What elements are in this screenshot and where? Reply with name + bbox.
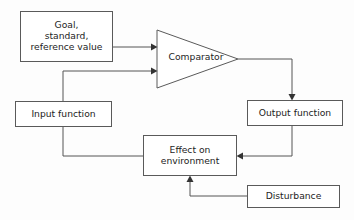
node-goal[interactable]: Goal, standard, reference value — [20, 11, 113, 62]
edge-comparator-to-output — [238, 59, 292, 94]
node-effect-on-environment[interactable]: Effect on environment — [143, 135, 237, 176]
diagram-canvas: Goal, standard, reference value Comparat… — [0, 0, 354, 220]
edge-input-to-comparator — [63, 71, 151, 101]
node-input-function[interactable]: Input function — [15, 101, 112, 127]
node-disturbance[interactable]: Disturbance — [247, 185, 340, 208]
edge-output-to-effect — [243, 126, 292, 156]
comparator-triangle — [157, 30, 238, 88]
node-output-function[interactable]: Output function — [247, 100, 343, 126]
arrowhead-disturbance-to-effect — [187, 176, 194, 183]
arrowhead-output-to-effect — [237, 153, 244, 160]
edge-input-to-effect — [63, 127, 143, 156]
edge-disturbance-to-effect — [190, 182, 247, 196]
